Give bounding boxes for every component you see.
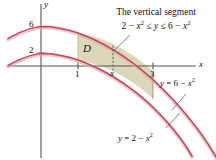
curve-lower xyxy=(8,53,192,156)
annotation-line-1: The vertical segment xyxy=(100,8,212,18)
curve-upper-label: y = 6 − x2 xyxy=(160,79,195,88)
curve-lower-label: y = 2 − x2 xyxy=(118,134,153,143)
segment-position-label: x xyxy=(110,69,114,78)
annot-exp-2: 2 xyxy=(187,19,190,26)
y-tick-label-6: 6 xyxy=(29,20,34,29)
region-label-d: D xyxy=(83,43,91,54)
x-axis-label: x xyxy=(199,60,203,69)
lower-label-exp: 2 xyxy=(150,132,153,138)
upper-label-eq: = 6 − xyxy=(164,78,188,88)
lower-label-eq: = 2 − xyxy=(122,133,146,143)
annotation-line-2: 2 − x2 ≤ y ≤ 6 − x2 xyxy=(100,22,212,32)
upper-label-exp: 2 xyxy=(192,77,195,83)
figure-container: y x 6 2 1 3 D x The vertical segment 2 −… xyxy=(0,0,216,160)
y-tick-label-2: 2 xyxy=(29,46,34,55)
annotation-leader-line xyxy=(115,35,131,50)
lower-curve-leader-line xyxy=(166,113,180,128)
x-tick-label-1: 1 xyxy=(75,70,80,79)
annot-mid-2: ≤ 6 − xyxy=(158,21,183,31)
y-axis-label: y xyxy=(44,0,48,9)
x-tick-label-3: 3 xyxy=(150,70,155,79)
annot-mid-1: ≤ xyxy=(144,21,154,31)
annot-prefix: 2 − xyxy=(122,21,137,31)
